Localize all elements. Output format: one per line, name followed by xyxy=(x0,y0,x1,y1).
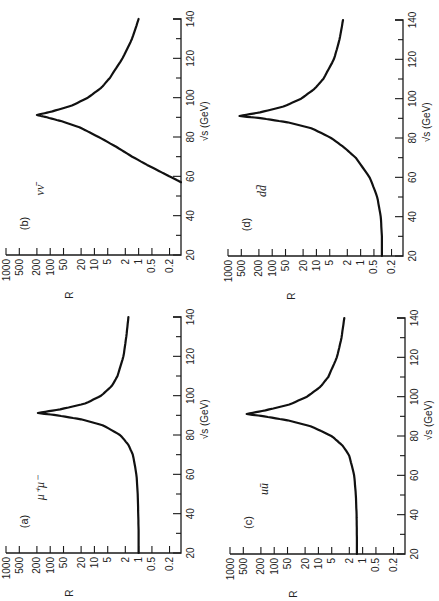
axes-frame xyxy=(6,317,181,553)
x-tick-label: 100 xyxy=(407,90,418,107)
y-tick-label: 500 xyxy=(14,259,25,276)
x-tick-label: 120 xyxy=(185,50,196,67)
y-axis-label: R xyxy=(288,590,299,597)
y-tick-label: 1 xyxy=(357,558,368,564)
y-tick-label: 0.2 xyxy=(386,260,397,274)
x-axis-label: √s (GeV) xyxy=(423,400,434,440)
axes-frame xyxy=(230,318,405,554)
y-tick-label: 50 xyxy=(280,260,291,272)
y-tick-label: 200 xyxy=(253,260,264,277)
panel-label: (d) xyxy=(240,218,252,231)
y-tick-label: 100 xyxy=(45,259,56,276)
y-tick-label: 100 xyxy=(45,557,56,574)
y-tick-label: 0.5 xyxy=(146,557,157,571)
x-tick-label: 140 xyxy=(407,11,418,28)
channel-label: νν̄ xyxy=(33,182,47,196)
y-tick-label: 5 xyxy=(102,557,113,563)
y-tick-label: 5 xyxy=(102,259,113,265)
x-tick-label: 120 xyxy=(409,349,420,366)
x-tick-label: 40 xyxy=(407,211,418,223)
x-tick-label: 40 xyxy=(185,210,196,222)
channel-label: uū xyxy=(257,483,271,495)
x-axis-label: √s (GeV) xyxy=(421,102,432,142)
y-tick-label: 500 xyxy=(238,558,249,575)
chart-svg: 20406080100120140√s (GeV)100050020010050… xyxy=(224,304,439,601)
cross-section-ratio-curve xyxy=(247,318,357,554)
x-tick-label: 60 xyxy=(409,469,420,481)
x-tick-label: 80 xyxy=(185,131,196,143)
y-tick-label: 10 xyxy=(89,557,100,569)
axes-frame xyxy=(6,19,181,255)
x-tick-label: 40 xyxy=(185,508,196,520)
y-tick-label: 10 xyxy=(311,260,322,272)
y-axis-label: R xyxy=(64,589,75,596)
panel-label: (b) xyxy=(18,217,30,230)
x-tick-label: 60 xyxy=(407,171,418,183)
y-tick-label: 500 xyxy=(236,260,247,277)
axes-frame xyxy=(228,20,403,256)
y-tick-label: 20 xyxy=(76,557,87,569)
y-tick-label: 0.5 xyxy=(370,558,381,572)
x-axis-label: √s (GeV) xyxy=(199,101,210,141)
y-tick-label: 50 xyxy=(58,259,69,271)
x-tick-label: 20 xyxy=(409,548,420,560)
y-tick-label: 1000 xyxy=(1,259,12,282)
y-tick-label: 0.2 xyxy=(164,557,175,571)
panel-c-uubar: 20406080100120140√s (GeV)100050020010050… xyxy=(224,304,439,601)
x-tick-label: 140 xyxy=(409,309,420,326)
chart-svg: 20406080100120140√s (GeV)100050020010050… xyxy=(0,303,215,601)
y-tick-label: 0.5 xyxy=(146,259,157,273)
y-tick-label: 2 xyxy=(344,558,355,564)
panel-label: (c) xyxy=(242,516,254,529)
y-tick-label: 20 xyxy=(76,259,87,271)
x-tick-label: 100 xyxy=(409,388,420,405)
cross-section-ratio-curve xyxy=(38,317,139,553)
channel-label: dd̄ xyxy=(255,184,269,197)
y-tick-label: 1 xyxy=(133,557,144,563)
y-tick-label: 200 xyxy=(255,558,266,575)
x-tick-label: 80 xyxy=(185,429,196,441)
chart-svg: 20406080100120140√s (GeV)100050020010050… xyxy=(222,6,437,306)
y-axis-label: R xyxy=(286,292,297,299)
y-tick-label: 0.2 xyxy=(164,259,175,273)
y-tick-label: 50 xyxy=(58,557,69,569)
y-tick-label: 2 xyxy=(120,259,131,265)
x-tick-label: 20 xyxy=(185,249,196,261)
x-tick-label: 100 xyxy=(185,89,196,106)
y-tick-label: 2 xyxy=(120,557,131,563)
x-tick-label: 120 xyxy=(185,348,196,365)
y-tick-label: 1000 xyxy=(1,557,12,580)
x-tick-label: 20 xyxy=(407,250,418,262)
y-tick-label: 200 xyxy=(31,557,42,574)
panel-label: (a) xyxy=(18,515,30,528)
y-tick-label: 2 xyxy=(342,260,353,266)
y-tick-label: 1 xyxy=(133,259,144,265)
x-tick-label: 120 xyxy=(407,51,418,68)
y-tick-label: 1000 xyxy=(225,558,236,581)
y-tick-label: 20 xyxy=(298,260,309,272)
y-tick-label: 5 xyxy=(324,260,335,266)
chart-svg: 20406080100120140√s (GeV)100050020010050… xyxy=(0,5,215,305)
y-tick-label: 20 xyxy=(300,558,311,570)
y-tick-label: 500 xyxy=(14,557,25,574)
y-tick-label: 10 xyxy=(89,259,100,271)
y-tick-label: 10 xyxy=(313,558,324,570)
x-tick-label: 60 xyxy=(185,170,196,182)
y-tick-label: 1 xyxy=(355,260,366,266)
cross-section-ratio-curve xyxy=(240,20,382,256)
x-tick-label: 140 xyxy=(185,308,196,325)
y-tick-label: 5 xyxy=(326,558,337,564)
y-tick-label: 100 xyxy=(267,260,278,277)
x-tick-label: 140 xyxy=(185,10,196,27)
y-tick-label: 200 xyxy=(31,259,42,276)
y-tick-label: 50 xyxy=(282,558,293,570)
x-tick-label: 100 xyxy=(185,387,196,404)
panel-a-mumu: 20406080100120140√s (GeV)100050020010050… xyxy=(0,303,215,601)
y-tick-label: 0.5 xyxy=(368,260,379,274)
x-tick-label: 80 xyxy=(407,132,418,144)
y-tick-label: 1000 xyxy=(223,260,234,283)
x-axis-label: √s (GeV) xyxy=(199,399,210,439)
y-tick-label: 0.2 xyxy=(388,558,399,572)
x-tick-label: 20 xyxy=(185,547,196,559)
cross-section-ratio-curve xyxy=(37,19,181,182)
